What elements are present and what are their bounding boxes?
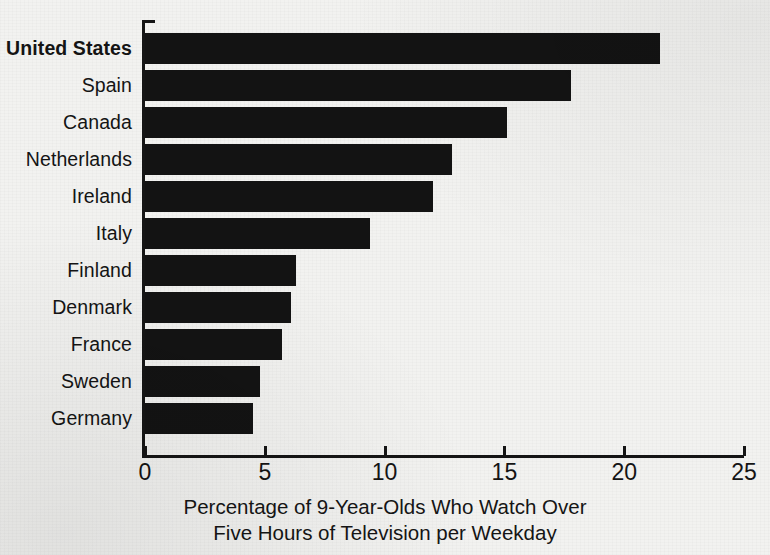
bar-category-label: Sweden <box>61 363 132 400</box>
bar-row: Ireland <box>0 178 770 215</box>
bar <box>145 70 571 101</box>
bar-chart-figure: United StatesSpainCanadaNetherlandsIrela… <box>0 0 770 555</box>
x-axis-tick <box>623 446 626 456</box>
bar-row: Netherlands <box>0 141 770 178</box>
bar-category-label: Germany <box>51 400 132 437</box>
x-axis-caption-line-1: Percentage of 9-Year-Olds Who Watch Over <box>0 494 770 520</box>
bar-category-label: Finland <box>67 252 132 289</box>
bar <box>145 107 507 138</box>
x-axis-tick <box>264 446 267 456</box>
bar <box>145 33 660 64</box>
bar-row: Denmark <box>0 289 770 326</box>
x-axis-tick <box>503 446 506 456</box>
bar-row: Germany <box>0 400 770 437</box>
bar <box>145 366 260 397</box>
bar-row: United States <box>0 30 770 67</box>
x-axis-tick-label: 10 <box>355 459 415 486</box>
bar <box>145 403 253 434</box>
bar <box>145 255 296 286</box>
x-axis-tick-label: 0 <box>115 459 175 486</box>
x-axis-caption-line-2: Five Hours of Television per Weekday <box>0 520 770 546</box>
bar-category-label: Italy <box>96 215 132 252</box>
x-axis-tick <box>384 446 387 456</box>
bar <box>145 292 291 323</box>
bar-category-label: United States <box>6 30 132 67</box>
x-axis-tick <box>743 446 746 456</box>
bar-row: Canada <box>0 104 770 141</box>
bar-category-label: Denmark <box>52 289 132 326</box>
bar-category-label: Netherlands <box>26 141 132 178</box>
bar-row: Spain <box>0 67 770 104</box>
bar-category-label: Ireland <box>72 178 132 215</box>
x-axis-tick-label: 5 <box>235 459 295 486</box>
bar-category-label: Canada <box>63 104 132 141</box>
bar <box>145 218 370 249</box>
bar-row: Italy <box>0 215 770 252</box>
x-axis-line <box>142 455 744 458</box>
x-axis-caption: Percentage of 9-Year-Olds Who Watch Over… <box>0 494 770 546</box>
bar-row: Finland <box>0 252 770 289</box>
bar-category-label: France <box>71 326 132 363</box>
bar <box>145 181 433 212</box>
bar <box>145 329 282 360</box>
plot-area: United StatesSpainCanadaNetherlandsIrela… <box>0 0 770 470</box>
x-axis-tick-label: 20 <box>594 459 654 486</box>
x-axis-tick-label: 25 <box>714 459 770 486</box>
x-axis-tick-label: 15 <box>474 459 534 486</box>
bar <box>145 144 452 175</box>
bar-row: Sweden <box>0 363 770 400</box>
bar-category-label: Spain <box>82 67 132 104</box>
x-axis-tick <box>144 446 147 456</box>
bar-row: France <box>0 326 770 363</box>
